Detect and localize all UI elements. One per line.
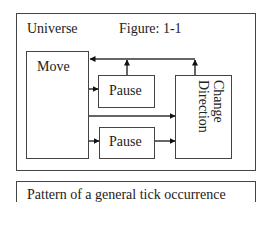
figure-label: Figure: 1-1: [119, 22, 182, 36]
pause-bottom-label: Pause: [109, 135, 142, 149]
change-direction-label: Change Direction: [183, 80, 225, 133]
change-label-line2: Direction: [196, 80, 211, 133]
pause-top-label: Pause: [109, 84, 142, 98]
universe-label: Universe: [27, 22, 78, 36]
change-label-line1: Change: [210, 80, 225, 133]
move-label: Move: [37, 60, 70, 74]
caption-text: Pattern of a general tick occurrence: [27, 188, 226, 202]
